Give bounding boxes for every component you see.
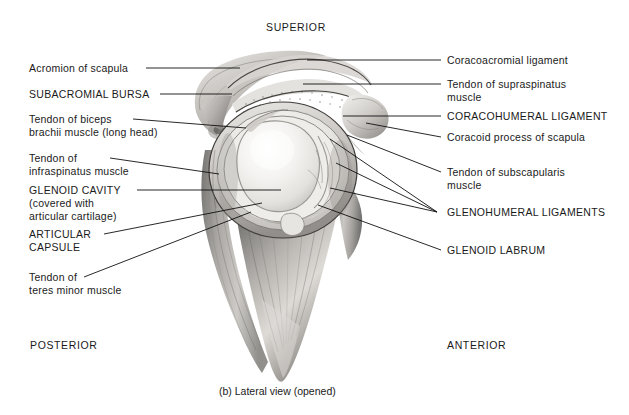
label-tendon-of-supraspinatus-line1: Tendon of supraspinatus [447, 78, 566, 91]
label-tendon-of-biceps-line1: Tendon of biceps [29, 113, 112, 126]
label-acromion-of-scapula: Acromion of scapula [29, 62, 128, 75]
label-glenoid-cavity-line2: (covered with [29, 197, 94, 210]
label-tendon-of-subscapularis-line1: Tendon of subscapularis [447, 166, 565, 179]
label-tendon-of-infraspinatus-line1: Tendon of [29, 152, 77, 165]
label-glenoid-cavity-line3: articular cartilage) [29, 210, 117, 223]
orientation-posterior: POSTERIOR [30, 339, 98, 351]
label-coracoacromial-ligament: Coracoacromial ligament [447, 54, 568, 67]
label-glenohumeral-ligaments: GLENOHUMERAL LIGAMENTS [447, 206, 605, 219]
label-tendon-of-supraspinatus-line2: muscle [447, 91, 482, 104]
label-coracohumeral-ligament: CORACOHUMERAL LIGAMENT [447, 110, 608, 123]
figure-caption: (b) Lateral view (opened) [219, 385, 336, 397]
anatomy-figure: SUPERIOR POSTERIOR ANTERIOR (b) Lateral … [0, 0, 629, 415]
orientation-anterior: ANTERIOR [447, 339, 506, 351]
label-coracoid-process-of-scapula: Coracoid process of scapula [447, 131, 585, 144]
label-articular-capsule-line1: ARTICULAR [29, 228, 91, 241]
label-articular-capsule-line2: CAPSULE [29, 241, 80, 254]
label-tendon-of-infraspinatus-line2: infraspinatus muscle [29, 165, 129, 178]
label-glenoid-cavity-line1: GLENOID CAVITY [29, 184, 121, 197]
orientation-superior: SUPERIOR [266, 21, 326, 33]
label-tendon-of-subscapularis-line2: muscle [447, 179, 482, 192]
label-tendon-of-teres-minor-line2: teres minor muscle [29, 284, 121, 297]
label-tendon-of-teres-minor-line1: Tendon of [29, 271, 77, 284]
label-subacromial-bursa: SUBACROMIAL BURSA [29, 88, 150, 101]
label-text-layer: SUPERIOR POSTERIOR ANTERIOR (b) Lateral … [0, 0, 629, 415]
label-tendon-of-biceps-line2: brachii muscle (long head) [29, 126, 158, 139]
label-glenoid-labrum: GLENOID LABRUM [447, 244, 545, 257]
